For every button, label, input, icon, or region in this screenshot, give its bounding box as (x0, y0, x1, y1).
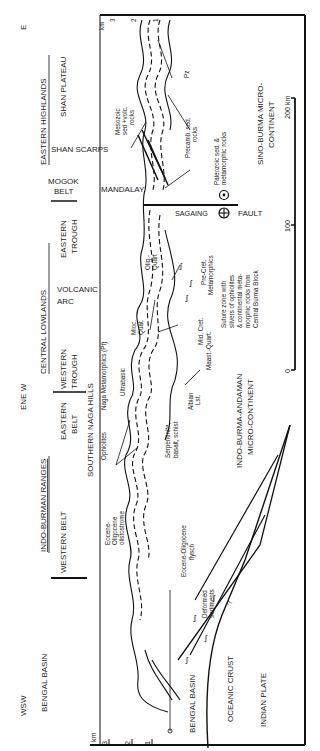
region-eastern-belt-1: EASTERN (59, 402, 68, 440)
svg-text:3: 3 (109, 18, 116, 22)
region-bengal-basin: BENGAL BASIN (40, 653, 49, 712)
svg-text:SINO-BURMA MICRO-: SINO-BURMA MICRO- (256, 82, 265, 165)
svg-text:Mioc.: Mioc. (130, 320, 137, 335)
rock-labels: Eocene- Oligocene olistostrome Eocene-Ol… (100, 71, 259, 618)
svg-text:km: km (98, 22, 105, 30)
scale-tick-200: 200 km (283, 95, 292, 119)
svg-text:Lst.: Lst. (194, 395, 201, 405)
svg-text:BENGAL BASIN: BENGAL BASIN (188, 674, 197, 733)
direction-wsw: WSW (19, 695, 28, 716)
region-eastern-trough-1: EASTERN (59, 220, 68, 258)
km-tick-1: 1 (143, 741, 152, 745)
label-fault: FAULT (238, 209, 262, 218)
km-tick-3: 3 (100, 741, 109, 745)
vertical-scale-east: km 3 2 1 (98, 18, 159, 30)
svg-text:1: 1 (152, 18, 159, 22)
svg-text:Central Burma Block: Central Burma Block (252, 269, 259, 328)
svg-text:Eocene-: Eocene- (104, 522, 111, 545)
svg-text:Deformed: Deformed (201, 590, 208, 618)
shan-scarp-thrusts (138, 130, 168, 185)
svg-text:metamorphic rocks: metamorphic rocks (220, 132, 228, 185)
label-mandalay: MANDALAY (101, 185, 145, 194)
label-southern-naga-hills: SOUTHERN NAGA HILLS (86, 383, 95, 477)
direction-e: E (19, 25, 28, 30)
vertical-scale: km 3 2 1 (89, 732, 152, 745)
region-shan-plateau: SHAN PLATEAU (59, 56, 68, 117)
svg-text:INDIAN PLATE: INDIAN PLATE (259, 673, 268, 727)
svg-text:MICRO-CONTINENT: MICRO-CONTINENT (246, 379, 255, 455)
svg-text:Maast.-Quart.: Maast.-Quart. (205, 331, 213, 370)
region-western-belt: WESTERN BELT (59, 511, 68, 573)
region-eastern-belt-2: BELT (70, 414, 79, 434)
uncertain-mark: ? (225, 600, 234, 605)
svg-text:Metamorphics: Metamorphics (207, 255, 215, 295)
svg-text:Eocene-Oligocene: Eocene-Oligocene (180, 525, 188, 577)
svg-text:basalt, schist: basalt, schist (172, 421, 179, 458)
svg-text:Suture zone with: Suture zone with (220, 281, 227, 328)
svg-text:Pre-Cret.: Pre-Cret. (200, 259, 207, 285)
svg-text:Paleozoic sed. &: Paleozoic sed. & (213, 137, 220, 185)
cross-section-diagram: ? km 3 2 1 (0, 0, 320, 751)
svg-text:Ophiolites: Ophiolites (100, 432, 108, 460)
svg-text:flysch: flysch (188, 543, 196, 560)
label-sagaing: SAGAING (175, 209, 208, 218)
region-mogok-belt-2: BELT (54, 187, 74, 196)
svg-text:Quat.: Quat. (137, 319, 145, 335)
region-volcanic-arc-1: VOLCANIC (57, 285, 98, 294)
svg-text:Mesozoic: Mesozoic (114, 108, 121, 135)
svg-text:rocks: rocks (128, 110, 135, 125)
svg-text:morphic rocks from: morphic rocks from (244, 274, 252, 328)
region-indo-burman-ranges: INDO-BURMAN RANGES (39, 459, 48, 552)
direction-ene-w: ENE W (19, 383, 28, 410)
svg-text:CONTINENT: CONTINENT (267, 101, 276, 148)
km-unit-label: km (89, 732, 98, 742)
svg-text:Mid. Cret.: Mid. Cret. (197, 317, 204, 345)
svg-text:olistostrome: olistostrome (118, 511, 125, 545)
svg-text:ʃ: ʃ (179, 261, 183, 270)
fault-motion-toward-icon (220, 191, 229, 200)
svg-text:Albian: Albian (187, 392, 194, 410)
svg-text:ʃ: ʃ (212, 593, 216, 602)
horizontal-scale-bar: 0 100 200 km (283, 95, 295, 373)
region-eastern-trough-2: TROUGH (70, 219, 79, 254)
region-western-trough-1: WESTERN (59, 349, 68, 389)
svg-text:Precamb. sed.: Precamb. sed. (184, 117, 191, 158)
svg-text:ʃ: ʃ (204, 633, 208, 642)
region-eastern-highlands: EASTERN HIGHLANDS (39, 78, 48, 165)
svg-text:Pz: Pz (183, 71, 190, 78)
scale-tick-100: 100 (283, 220, 292, 232)
svg-text:sed +volc.: sed +volc. (121, 106, 128, 135)
svg-text:ʃ: ʃ (185, 655, 189, 664)
svg-text:ʃ: ʃ (189, 278, 193, 287)
svg-text:ʃ: ʃ (193, 613, 197, 622)
region-volcanic-arc-2: ARC (57, 297, 74, 306)
svg-text:INDO-BURMA-ANDAMAN: INDO-BURMA-ANDAMAN (235, 374, 244, 468)
svg-text:OCEANIC CRUST: OCEANIC CRUST (226, 656, 235, 722)
svg-text:& continental meta-: & continental meta- (236, 274, 243, 328)
fault-motion-away-icon (219, 208, 229, 218)
svg-text:2: 2 (130, 18, 137, 22)
km-tick-2: 2 (123, 741, 132, 745)
svg-text:slivers of ophiolites: slivers of ophiolites (228, 275, 236, 328)
region-central-lowlands: CENTRAL LOWLANDS (39, 290, 48, 374)
crust-labels: BENGAL BASIN OCEANIC CRUST INDIAN PLATE … (188, 82, 276, 733)
region-shan-scarps: SHAN SCARPS (51, 145, 108, 154)
region-western-trough-2: TROUGH (70, 354, 79, 389)
svg-text:Quart: Quart (151, 254, 159, 270)
svg-text:Naga Metamorphics (Pt): Naga Metamorphics (Pt) (100, 342, 108, 410)
svg-text:ʃ: ʃ (185, 293, 189, 302)
scale-tick-0: 0 (283, 369, 292, 373)
svg-text:Serpentinite,: Serpentinite, (164, 422, 172, 458)
svg-text:rocks: rocks (191, 127, 198, 142)
svg-text:Ultrabasic: Ultrabasic (119, 368, 126, 396)
region-mogok-belt-1: MOGOK (48, 177, 79, 186)
